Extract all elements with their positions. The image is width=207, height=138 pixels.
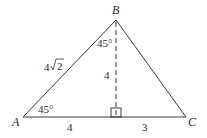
side-ab: [23, 20, 116, 117]
angle-label-a: 45°: [38, 103, 53, 115]
side-ab-radicand: 2: [57, 60, 63, 72]
vertex-label-c: C: [188, 115, 197, 129]
side-label-ab: 4 2: [44, 59, 64, 73]
side-ab-coefficient: 4: [44, 61, 50, 73]
side-bc: [116, 20, 186, 117]
angle-label-b: 45°: [97, 37, 112, 49]
segment-label-ad: 4: [67, 121, 73, 133]
altitude-label: 4: [104, 69, 110, 81]
triangle-diagram: B A C 45° 45° 4 2 4 4 3: [0, 0, 207, 138]
vertex-label-b: B: [112, 3, 120, 17]
segment-label-dc: 3: [142, 121, 148, 133]
vertex-label-a: A: [11, 115, 20, 129]
